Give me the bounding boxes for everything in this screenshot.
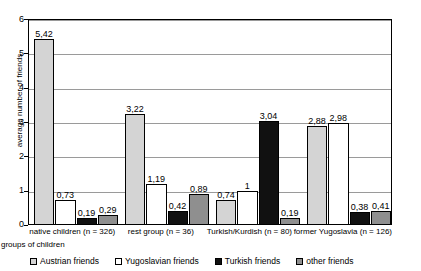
bar-wrapper: 0,74 [216,200,236,225]
bar-wrapper: 0,29 [98,215,118,225]
bar-turkish[interactable] [350,212,370,225]
legend-label: other friends [306,256,353,266]
legend-swatch-turkish [215,258,222,265]
bar-other[interactable] [280,218,300,225]
bar-value-label: 0,29 [99,205,117,215]
bar-wrapper: 0,19 [77,218,97,225]
bar-groups: 5,420,730,190,293,221,190,420,890,7413,0… [28,19,392,225]
legend-item[interactable]: other friends [296,256,353,266]
bar-group: 0,7413,040,19 [210,19,301,225]
x-tick-label: Turkish/Kurdish (n = 80) [205,227,294,236]
bar-value-label: 0,89 [190,184,208,194]
bar-wrapper: 2,88 [307,126,327,225]
bar-value-label: 3,22 [126,104,144,114]
bar-set: 5,420,730,190,29 [28,19,119,225]
bar-turkish[interactable] [259,121,279,225]
bar-wrapper: 1 [237,191,257,225]
bar-value-label: 2,98 [330,113,348,123]
bar-value-label: 2,88 [308,116,326,126]
bar-wrapper: 3,04 [259,121,279,225]
bar-wrapper: 0,89 [189,194,209,225]
legend-swatch-yugoslavian [115,258,122,265]
y-tick-label-2: 2 [0,152,24,161]
bar-other[interactable] [98,215,118,225]
bar-yugoslavian[interactable] [328,123,348,225]
bar-turkish[interactable] [77,218,97,225]
bar-value-label: 1 [245,181,250,191]
bar-wrapper: 3,22 [125,114,145,225]
legend-label: Turkish friends [225,256,280,266]
bar-other[interactable] [189,194,209,225]
x-tick-label: former Yugoslavia (n = 126) [294,227,392,236]
bar-group: 5,420,730,190,29 [28,19,119,225]
bar-chart: average number of friends 6 5 4 3 2 1 0 … [0,0,421,271]
bar-value-label: 0,19 [281,208,299,218]
y-tick-label-5: 5 [0,49,24,58]
bar-wrapper: 0,41 [371,211,391,225]
legend-label: Austrian friends [40,256,99,266]
bar-set: 2,882,980,380,41 [301,19,392,225]
bar-value-label: 0,19 [78,208,96,218]
x-tick-label: native children (n = 326) [28,227,117,236]
bar-set: 3,221,190,420,89 [119,19,210,225]
bar-turkish[interactable] [168,211,188,225]
bar-value-label: 3,04 [260,111,278,121]
y-tick-label-1: 1 [0,186,24,195]
bar-value-label: 0,42 [169,201,187,211]
x-axis-title: groups of children [1,240,65,249]
y-tick-label-6: 6 [0,15,24,24]
y-tick-label-0: 0 [0,220,24,229]
bar-austrian[interactable] [125,114,145,225]
bar-wrapper: 5,42 [34,39,54,225]
bar-value-label: 0,73 [57,190,75,200]
bar-yugoslavian[interactable] [55,200,75,225]
bar-wrapper: 0,73 [55,200,75,225]
legend: Austrian friendsYugoslavian friendsTurki… [30,256,410,266]
bar-value-label: 5,42 [35,29,53,39]
bar-austrian[interactable] [307,126,327,225]
y-tick-label-3: 3 [0,118,24,127]
bar-wrapper: 1,19 [146,184,166,225]
x-tick-label: rest group (n = 36) [117,227,206,236]
bar-yugoslavian[interactable] [146,184,166,225]
bar-other[interactable] [371,211,391,225]
bar-wrapper: 0,42 [168,211,188,225]
y-tick-label-4: 4 [0,83,24,92]
legend-swatch-other [296,258,303,265]
bar-wrapper: 0,38 [350,212,370,225]
bar-value-label: 0,74 [217,190,235,200]
bar-wrapper: 2,98 [328,123,348,225]
bar-austrian[interactable] [34,39,54,225]
y-tick-mark-0 [24,225,28,226]
bar-group: 3,221,190,420,89 [119,19,210,225]
bar-value-label: 1,19 [148,174,166,184]
legend-item[interactable]: Turkish friends [215,256,280,266]
bar-value-label: 0,38 [351,202,369,212]
legend-item[interactable]: Austrian friends [30,256,99,266]
x-axis-tick-labels: native children (n = 326)rest group (n =… [28,227,392,236]
bar-austrian[interactable] [216,200,236,225]
bar-group: 2,882,980,380,41 [301,19,392,225]
bar-wrapper: 0,19 [280,218,300,225]
bar-set: 0,7413,040,19 [210,19,301,225]
legend-label: Yugoslavian friends [125,256,199,266]
legend-swatch-austrian [30,258,37,265]
bar-yugoslavian[interactable] [237,191,257,225]
legend-item[interactable]: Yugoslavian friends [115,256,199,266]
bar-value-label: 0,41 [372,201,390,211]
